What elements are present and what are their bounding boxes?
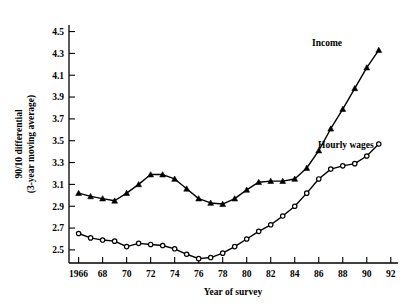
y-tick-label: 3.1 — [52, 180, 64, 190]
data-point — [160, 243, 164, 247]
data-point — [148, 242, 152, 246]
data-point — [184, 252, 188, 256]
data-point — [245, 237, 249, 241]
y-tick-label: 3.9 — [52, 92, 64, 102]
data-point — [352, 85, 358, 90]
line-chart-canvas: 2.52.72.93.13.33.53.73.94.14.34.5 196668… — [0, 0, 408, 305]
y-tick-label: 3.3 — [52, 158, 64, 168]
data-point — [377, 142, 381, 146]
data-point — [376, 47, 382, 52]
y-tick-label: 2.7 — [52, 223, 64, 233]
x-tick-label: 78 — [218, 269, 228, 279]
y-tick-label: 3.5 — [52, 136, 64, 146]
data-point — [340, 106, 346, 111]
series-income — [76, 47, 382, 206]
x-tick-label: 88 — [338, 269, 348, 279]
data-point — [88, 236, 92, 240]
x-axis-tick-labels: 196668707274767880828486889092 — [69, 269, 396, 279]
data-point — [136, 241, 140, 245]
series-annotation-hourly-wages: Hourly wages — [318, 140, 374, 150]
x-tick-label: 90 — [362, 269, 372, 279]
x-axis-title: Year of survey — [204, 287, 263, 297]
y-axis-title-line2: (3-year moving average) — [26, 95, 37, 194]
data-point — [172, 247, 176, 251]
data-point — [124, 244, 128, 248]
data-point — [220, 251, 224, 255]
y-tick-label: 4.3 — [52, 49, 64, 59]
y-axis-ticks — [69, 32, 75, 250]
y-axis-tick-labels: 2.52.72.93.13.33.53.73.94.14.34.5 — [52, 27, 64, 255]
x-axis: 196668707274767880828486889092 — [69, 257, 398, 279]
x-tick-label: 80 — [242, 269, 252, 279]
y-tick-label: 3.7 — [52, 114, 64, 124]
data-point — [196, 256, 200, 260]
x-tick-label: 70 — [122, 269, 132, 279]
data-point — [365, 154, 369, 158]
y-tick-label: 2.5 — [52, 245, 64, 255]
data-point — [281, 214, 285, 218]
x-axis-ticks — [79, 257, 391, 263]
x-tick-label: 72 — [146, 269, 156, 279]
data-point — [233, 244, 237, 248]
series-annotation-income: Income — [312, 38, 342, 48]
x-tick-label: 76 — [194, 269, 204, 279]
data-point — [293, 204, 297, 208]
x-tick-label: 86 — [314, 269, 324, 279]
data-point — [329, 167, 333, 171]
y-tick-label: 4.5 — [52, 27, 64, 37]
data-point — [317, 177, 321, 181]
data-point — [76, 190, 82, 195]
x-tick-label: 82 — [266, 269, 276, 279]
series-line — [79, 50, 379, 204]
x-tick-label: 74 — [170, 269, 180, 279]
y-axis: 2.52.72.93.13.33.53.73.94.14.34.5 — [52, 25, 75, 263]
data-point — [257, 229, 261, 233]
data-point — [353, 161, 357, 165]
y-axis-title-group: 90/10 differential (3-year moving averag… — [14, 95, 37, 194]
y-tick-label: 4.1 — [52, 71, 64, 81]
y-tick-label: 2.9 — [52, 202, 64, 212]
x-tick-label: 68 — [98, 269, 108, 279]
data-point — [269, 223, 273, 227]
data-point — [100, 238, 104, 242]
x-tick-label: 84 — [290, 269, 300, 279]
x-tick-label: 1966 — [69, 269, 88, 279]
x-tick-label: 92 — [386, 269, 396, 279]
data-series-layer — [76, 47, 382, 261]
data-point — [112, 239, 116, 243]
y-axis-title-line1: 90/10 differential — [14, 109, 24, 179]
data-point — [208, 255, 212, 259]
chart-figure: 2.52.72.93.13.33.53.73.94.14.34.5 196668… — [0, 0, 408, 305]
data-point — [76, 231, 80, 235]
data-point — [305, 191, 309, 195]
data-point — [341, 164, 345, 168]
